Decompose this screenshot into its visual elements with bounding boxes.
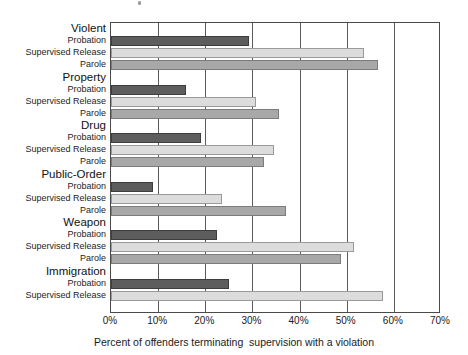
bar-violent-probation [111, 36, 249, 46]
x-tick-label-10%: 10% [147, 315, 167, 326]
bar-drug-supervised-release [111, 145, 274, 155]
bar-public-order-supervised-release [111, 194, 222, 204]
bar-row [111, 229, 439, 241]
bar-row [111, 47, 439, 59]
bar-row [111, 35, 439, 47]
series-label-parole: Parole [0, 58, 106, 70]
bar-row [111, 205, 439, 217]
series-label-parole: Parole [0, 107, 106, 119]
x-tick-label-70%: 70% [430, 315, 450, 326]
x-tick-label-30%: 30% [241, 315, 261, 326]
category-label-drug: Drug [0, 119, 106, 131]
bar-drug-probation [111, 133, 201, 143]
series-label-probation: Probation [0, 277, 106, 289]
bar-immigration-supervised-release [111, 291, 383, 301]
bar-row [111, 96, 439, 108]
series-label-probation: Probation [0, 34, 106, 46]
y-axis-labels: ViolentProbationSupervised ReleaseParole… [0, 22, 106, 313]
bar-row [111, 253, 439, 265]
category-label-weapon: Weapon [0, 216, 106, 228]
bar-row [111, 59, 439, 71]
x-axis-title: Percent of offenders terminating supervi… [0, 336, 468, 348]
bar-property-parole [111, 109, 279, 119]
bar-violent-supervised-release [111, 48, 364, 58]
x-tick-label-60%: 60% [383, 315, 403, 326]
series-label-supervised-release: Supervised Release [0, 289, 106, 301]
bar-row [111, 241, 439, 253]
series-label-probation: Probation [0, 180, 106, 192]
series-label-parole: Parole [0, 252, 106, 264]
bar-row [111, 181, 439, 193]
bar-immigration-probation [111, 279, 229, 289]
series-label-probation: Probation [0, 131, 106, 143]
bar-weapon-supervised-release [111, 242, 354, 252]
series-label-probation: Probation [0, 83, 106, 95]
bar-row [111, 156, 439, 168]
series-label-supervised-release: Supervised Release [0, 240, 106, 252]
category-label-violent: Violent [0, 22, 106, 34]
series-label-parole: Parole [0, 155, 106, 167]
series-label-supervised-release: Supervised Release [0, 192, 106, 204]
series-label-supervised-release: Supervised Release [0, 46, 106, 58]
x-tick-label-40%: 40% [289, 315, 309, 326]
bar-weapon-parole [111, 254, 341, 264]
bar-row [111, 290, 439, 302]
series-label-supervised-release: Supervised Release [0, 143, 106, 155]
category-label-immigration: Immigration [0, 265, 106, 277]
plot-area [110, 22, 440, 313]
bar-rows [111, 23, 439, 312]
series-label-probation: Probation [0, 228, 106, 240]
bar-row [111, 108, 439, 120]
bar-row [111, 84, 439, 96]
bar-chart: ViolentProbationSupervised ReleaseParole… [0, 0, 468, 355]
series-label-parole: Parole [0, 204, 106, 216]
bar-drug-parole [111, 157, 264, 167]
bar-row [111, 278, 439, 290]
bar-row [111, 132, 439, 144]
bar-row [111, 144, 439, 156]
x-tick-label-20%: 20% [194, 315, 214, 326]
x-tick-label-0%: 0% [103, 315, 117, 326]
scan-artifact [138, 1, 141, 5]
bar-public-order-parole [111, 206, 286, 216]
bar-row [111, 193, 439, 205]
x-axis-ticks: 0%10%20%30%40%50%60%70% [0, 315, 468, 331]
category-label-public-order: Public-Order [0, 168, 106, 180]
bar-public-order-probation [111, 182, 153, 192]
x-tick-label-50%: 50% [336, 315, 356, 326]
bar-property-probation [111, 85, 186, 95]
bar-violent-parole [111, 60, 378, 70]
bar-property-supervised-release [111, 97, 256, 107]
bar-weapon-probation [111, 230, 217, 240]
category-label-property: Property [0, 71, 106, 83]
series-label-supervised-release: Supervised Release [0, 95, 106, 107]
